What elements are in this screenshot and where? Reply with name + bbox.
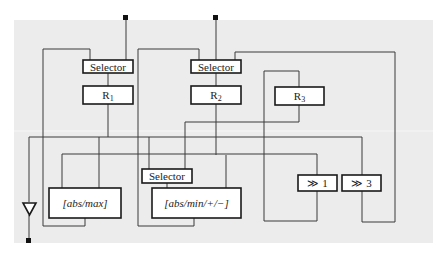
output-terminal [26,238,31,243]
register-r3-block: R3 [275,87,324,105]
shift-right-1-block: ≫ 1 [298,175,337,191]
abs-max-label: [abs/max] [62,197,107,209]
selector-1-block: Selector [83,60,133,73]
abs-max-block: [abs/max] [49,188,121,218]
input-terminal-1 [123,15,128,20]
abs-min-plus-minus-block: [abs/min/+/−] [152,188,241,218]
shift-right-3-label: ≫ 3 [351,177,372,189]
register-r2-block: R2 [191,86,241,104]
selector-1-label: Selector [90,61,126,73]
shift-right-3-block: ≫ 3 [342,175,381,191]
shift-right-1-label: ≫ 1 [307,177,327,189]
datapath-diagram: Selector R1 Selector R2 R3 Selector [abs… [0,0,442,260]
selector-3-block: Selector [142,169,192,183]
abs-min-plus-minus-label: [abs/min/+/−] [164,197,228,209]
selector-2-block: Selector [191,60,241,73]
register-r1-block: R1 [83,86,133,104]
selector-3-label: Selector [149,170,185,182]
input-terminal-2 [213,15,218,20]
selector-2-label: Selector [198,61,234,73]
